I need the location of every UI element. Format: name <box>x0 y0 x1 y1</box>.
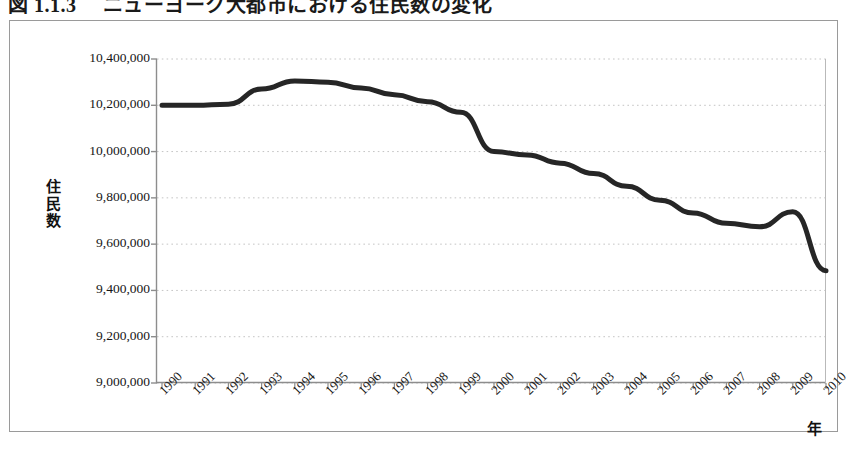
y-axis-tick-label: 10,400,000 <box>30 50 150 66</box>
x-axis-title: 年 <box>807 417 822 438</box>
x-axis-tick-labels: 1990199119921993199419951996199719981999… <box>156 387 846 447</box>
figure-title-strip: 図 1.1.3 ニューヨーク大都市における住民数の変化 <box>0 0 854 14</box>
y-axis-tick-label: 10,000,000 <box>30 143 150 159</box>
y-axis-tick-label: 9,200,000 <box>30 328 150 344</box>
y-axis-tick-label: 9,800,000 <box>30 189 150 205</box>
figure-frame: 住 民 数 10,400,00010,200,00010,000,0009,80… <box>9 20 838 432</box>
y-axis-tick-label: 9,600,000 <box>30 235 150 251</box>
line-chart-svg <box>156 59 826 383</box>
y-axis-tick-label: 9,400,000 <box>30 281 150 297</box>
data-series-line <box>162 81 826 271</box>
y-axis-tick-label: 10,200,000 <box>30 96 150 112</box>
y-axis-tick-label: 9,000,000 <box>30 374 150 390</box>
plot-area <box>156 59 826 383</box>
page-title: 図 1.1.3 ニューヨーク大都市における住民数の変化 <box>8 0 492 14</box>
y-axis-tick-labels: 10,400,00010,200,00010,000,0009,800,0009… <box>30 59 150 383</box>
